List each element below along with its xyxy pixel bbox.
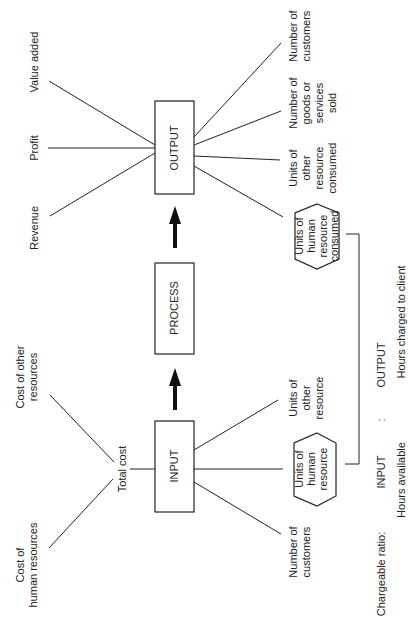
line-cost-human-resources (49, 479, 113, 548)
label-number-of-goods-or-services-sold: Number of goods or services sold (287, 76, 338, 128)
svg-text:goods or: goods or (300, 81, 312, 124)
svg-text:resource: resource (313, 377, 325, 420)
line-input-units-other-resource (194, 400, 278, 450)
input-box-label: INPUT (168, 449, 180, 482)
arrow-process-to-output-icon (169, 206, 181, 248)
svg-text:Units of: Units of (287, 148, 299, 186)
label-units-of-other-resource-consumed: Units of other resource consumed (287, 143, 338, 194)
label-cost-of-human-resources: Cost of human resources (14, 522, 39, 607)
arrow-input-to-process-icon (169, 368, 181, 410)
svg-text:Units of: Units of (293, 449, 305, 487)
svg-text:Number of: Number of (287, 525, 299, 577)
label-profit: Profit (28, 135, 40, 161)
label-revenue: Revenue (28, 206, 40, 250)
label-chargeable-ratio: Chargeable ratio: (375, 532, 387, 616)
svg-text:resource: resource (317, 448, 329, 491)
line-cost-other-resources (50, 395, 114, 462)
svg-text:other: other (300, 385, 312, 410)
svg-text:services: services (313, 82, 325, 123)
label-total-cost: Total cost (116, 446, 128, 492)
svg-text:Units of: Units of (287, 378, 299, 416)
line-input-number-of-customers (194, 482, 281, 534)
output-box-label: OUTPUT (168, 125, 180, 171)
label-output-number-of-customers: Number of customers (287, 9, 312, 61)
svg-text:human: human (305, 219, 317, 253)
label-units-of-human-resource-consumed: Units of human resource consumed (293, 211, 340, 262)
svg-text:Number of: Number of (287, 9, 299, 61)
svg-text:Cost of other: Cost of other (14, 345, 26, 408)
label-hours-charged-to-client: Hours charged to client (395, 265, 407, 378)
svg-text:consumed: consumed (326, 143, 338, 194)
label-ratio-separator: : (375, 418, 387, 421)
svg-text:consumed: consumed (328, 211, 340, 262)
svg-text:resources: resources (27, 352, 39, 401)
svg-text:Units of: Units of (293, 216, 305, 254)
line-output-goods-sold (194, 111, 281, 145)
line-output-number-of-customers (194, 43, 281, 137)
label-cost-of-other-resources: Cost of other resources (14, 345, 39, 408)
process-box-label: PROCESS (168, 281, 180, 335)
label-value-added: Value added (28, 32, 40, 93)
svg-text:customers: customers (300, 526, 312, 577)
label-input-number-of-customers: Number of customers (287, 525, 312, 577)
line-output-other-resource-consumed (194, 156, 280, 160)
line-output-human-resource-consumed (194, 166, 283, 217)
connector-human-resource (345, 234, 359, 464)
line-output-value-added (49, 81, 155, 145)
label-units-of-human-resource: Units of human resource (293, 448, 329, 491)
label-ratio-output: OUTPUT (375, 342, 387, 388)
line-output-revenue (50, 153, 155, 216)
svg-text:other: other (300, 155, 312, 180)
svg-text:human: human (305, 452, 317, 486)
svg-text:human resources: human resources (27, 522, 39, 607)
label-ratio-input: INPUT (375, 455, 387, 488)
svg-text:customers: customers (300, 10, 312, 61)
label-hours-available: Hours available (395, 442, 407, 518)
svg-text:Cost of: Cost of (14, 547, 26, 583)
svg-text:sold: sold (326, 93, 338, 113)
input-process-output-diagram: OUTPUT PROCESS INPUT Value added Profit … (0, 0, 408, 621)
svg-text:resource: resource (313, 147, 325, 190)
label-units-of-other-resource: Units of other resource (287, 377, 325, 420)
svg-text:Number of: Number of (287, 76, 299, 128)
